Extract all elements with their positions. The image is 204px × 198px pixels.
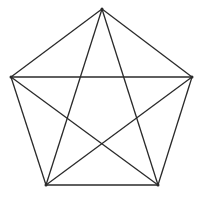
vertex-left bbox=[10, 76, 13, 79]
vertex-top bbox=[101, 8, 104, 11]
edge-line bbox=[11, 9, 102, 77]
edge-line bbox=[102, 9, 192, 77]
diagonal-line bbox=[102, 9, 158, 185]
edge-line bbox=[11, 77, 46, 185]
pentagon-diagram bbox=[0, 0, 204, 198]
vertex-bottom-left bbox=[45, 184, 48, 187]
diagonal-line bbox=[46, 9, 102, 185]
edge-line bbox=[158, 77, 192, 185]
diagonal-line bbox=[11, 77, 158, 185]
diagonal-line bbox=[46, 77, 192, 185]
vertex-bottom-right bbox=[157, 184, 160, 187]
pentagram-diagonals bbox=[11, 9, 192, 185]
vertex-right bbox=[191, 76, 194, 79]
